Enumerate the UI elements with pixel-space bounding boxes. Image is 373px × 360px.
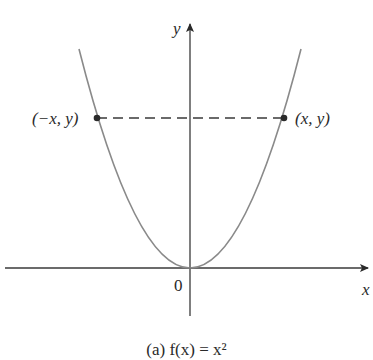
left-point bbox=[94, 115, 101, 122]
y-axis-label: y bbox=[173, 20, 181, 37]
figure-caption: (a) f(x) = x² bbox=[0, 340, 373, 360]
right-point-label: (x, y) bbox=[295, 110, 330, 127]
left-point-label: (−x, y) bbox=[32, 110, 78, 127]
x-axis-label: x bbox=[362, 281, 370, 298]
origin-label: 0 bbox=[174, 277, 183, 294]
right-point bbox=[281, 115, 288, 122]
